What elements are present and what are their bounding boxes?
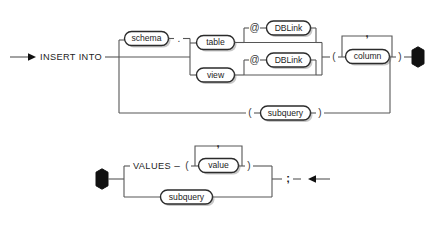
paren-open-column: ( [332,51,336,62]
end-arrow-left-icon [308,175,330,183]
term-view-label: view [207,70,225,80]
at-symbol-top: @ [249,22,259,33]
term-dblink-top-label: DBLink [275,23,303,33]
term-subquery-row2: subquery [161,190,215,206]
semicolon-terminator: ; [286,172,290,184]
term-value-label: value [208,160,229,170]
term-view: view [197,68,237,84]
term-dblink-top: DBLink [267,21,313,37]
term-value: value [199,159,241,175]
term-dblink-bottom-label: DBLink [275,55,303,65]
paren-close-column: ) [398,51,401,62]
start-arrow-right-icon [10,53,36,61]
paren-open-subquery-row1: ( [248,107,252,118]
term-subquery-row2-label: subquery [169,192,205,202]
paren-open-value: ( [185,160,189,171]
term-table: table [197,36,237,52]
term-subquery-row1: subquery [261,106,313,122]
end-node-hexagon-row1 [412,47,424,67]
term-schema: schema [125,32,171,48]
comma-column: , [365,27,368,39]
term-table-label: table [206,37,225,47]
term-column-label: column [354,51,382,61]
term-schema-label: schema [131,33,161,43]
start-node-hexagon-row2 [96,169,108,189]
at-symbol-bottom: @ [249,54,259,65]
railroad-diagram-root: INSERT INTO schema . table [0,0,428,225]
dot-separator: . [178,33,181,44]
keyword-values: VALUES [133,161,171,171]
dash-after-values: – [174,160,180,171]
paren-close-value: ) [247,160,250,171]
keyword-insert-into: INSERT INTO [40,52,102,62]
term-dblink-bottom: DBLink [267,53,313,69]
term-subquery-row1-label: subquery [268,108,304,118]
comma-value: , [216,137,219,149]
term-column: column [346,50,392,66]
paren-close-subquery-row1: ) [318,107,321,118]
railroad-diagram-svg: INSERT INTO schema . table [0,0,428,225]
